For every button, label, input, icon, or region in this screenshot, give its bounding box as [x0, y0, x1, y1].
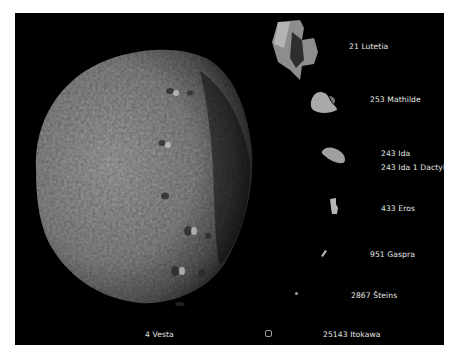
steins-asteroid — [295, 292, 298, 295]
label-itokawa: 25143 Itokawa — [323, 330, 381, 339]
itokawa-marker-icon — [265, 330, 272, 337]
label-vesta: 4 Vesta — [145, 330, 174, 339]
vesta-asteroid — [30, 41, 255, 309]
label-gaspra: 951 Gaspra — [370, 250, 415, 259]
label-ida: 243 Ida — [381, 149, 410, 158]
label-eros: 433 Eros — [381, 204, 415, 213]
label-mathilde: 253 Mathilde — [370, 95, 421, 104]
mathilde-asteroid — [309, 90, 339, 115]
ida-asteroid — [321, 146, 347, 165]
eros-asteroid — [329, 198, 339, 215]
asteroid-comparison-image: 4 Vesta 25143 Itokawa 21 Lutetia 253 Mat… — [15, 13, 444, 345]
label-steins: 2867 Šteins — [351, 291, 397, 300]
lutetia-asteroid — [270, 18, 320, 82]
label-lutetia: 21 Lutetia — [349, 42, 388, 51]
label-dactyl: 243 Ida 1 Dactyl — [381, 163, 444, 172]
gaspra-asteroid — [320, 249, 328, 257]
